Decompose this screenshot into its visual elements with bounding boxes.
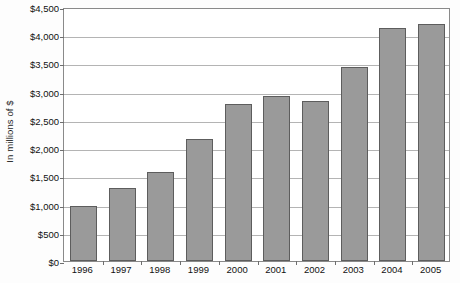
y-tick-mark bbox=[60, 122, 64, 123]
y-tick-mark bbox=[60, 235, 64, 236]
y-tick-label: $2,000 bbox=[30, 144, 59, 155]
x-tick-label: 1998 bbox=[149, 264, 170, 275]
y-tick-mark bbox=[60, 37, 64, 38]
y-axis-title: In millions of $ bbox=[0, 0, 18, 262]
bar bbox=[263, 96, 290, 261]
bars-group bbox=[64, 9, 449, 261]
x-tick-label: 2000 bbox=[227, 264, 248, 275]
y-tick-mark bbox=[60, 207, 64, 208]
y-tick-label: $2,500 bbox=[30, 115, 59, 126]
x-axis-tick-labels: 1996199719981999200020012002200320042005 bbox=[63, 264, 450, 280]
y-tick-mark bbox=[60, 94, 64, 95]
y-tick-label: $3,500 bbox=[30, 59, 59, 70]
y-tick-label: $3,000 bbox=[30, 87, 59, 98]
bar bbox=[379, 28, 406, 261]
x-tick-label: 2002 bbox=[304, 264, 325, 275]
x-tick-label: 1997 bbox=[110, 264, 131, 275]
y-tick-mark bbox=[60, 9, 64, 10]
y-tick-label: $500 bbox=[38, 228, 59, 239]
x-tick-label: 1999 bbox=[188, 264, 209, 275]
bar bbox=[147, 172, 174, 261]
x-tick-label: 1996 bbox=[72, 264, 93, 275]
bar bbox=[418, 24, 445, 261]
y-tick-mark bbox=[60, 178, 64, 179]
x-tick-label: 2003 bbox=[343, 264, 364, 275]
bar bbox=[225, 104, 252, 261]
y-tick-label: $4,500 bbox=[30, 3, 59, 14]
y-tick-label: $1,000 bbox=[30, 200, 59, 211]
y-tick-mark bbox=[60, 65, 64, 66]
y-axis-tick-labels: $0$500$1,000$1,500$2,000$2,500$3,000$3,5… bbox=[18, 8, 63, 262]
bar bbox=[302, 101, 329, 261]
bar bbox=[186, 139, 213, 261]
bar bbox=[109, 188, 136, 261]
bar bbox=[341, 67, 368, 261]
bar-chart: In millions of $ $0$500$1,000$1,500$2,00… bbox=[0, 0, 460, 283]
y-tick-label: $1,500 bbox=[30, 172, 59, 183]
y-tick-label: $4,000 bbox=[30, 31, 59, 42]
plot-area bbox=[63, 8, 450, 262]
y-tick-label: $0 bbox=[48, 257, 59, 268]
x-tick-label: 2005 bbox=[420, 264, 441, 275]
bar bbox=[70, 206, 97, 261]
x-tick-label: 2004 bbox=[381, 264, 402, 275]
y-axis-title-label: In millions of $ bbox=[4, 100, 15, 162]
y-tick-mark bbox=[60, 150, 64, 151]
x-tick-label: 2001 bbox=[265, 264, 286, 275]
